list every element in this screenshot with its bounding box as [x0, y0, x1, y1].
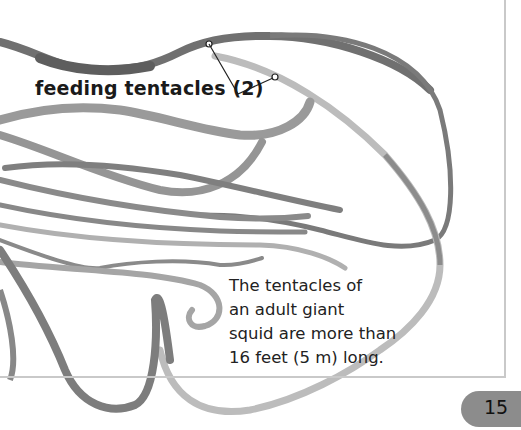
- page-number: 15: [484, 396, 508, 418]
- caption-line: squid are more than: [229, 322, 429, 346]
- caption-line: an adult giant: [229, 298, 429, 322]
- feeding-tentacles-label: feeding tentacles (2): [35, 77, 264, 99]
- frame-border-right: [504, 0, 506, 378]
- caption-line: The tentacles of: [229, 274, 429, 298]
- frame-border-bottom: [0, 376, 506, 378]
- caption-line: 16 feet (5 m) long.: [229, 346, 429, 370]
- caption-text: The tentacles of an adult giant squid ar…: [229, 274, 429, 370]
